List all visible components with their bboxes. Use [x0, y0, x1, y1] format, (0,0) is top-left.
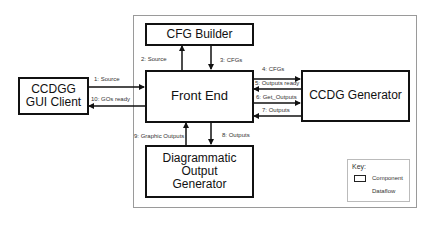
legend-key: Key: Component Dataflow — [347, 159, 410, 202]
flow-2-label: 2: Source — [141, 56, 167, 62]
key-component-label: Component — [372, 175, 403, 181]
dog-label-line3: Generator — [172, 178, 226, 191]
flow-3-label: 3: CFGs — [220, 57, 242, 63]
flow-5-label: 5: Outputs ready — [255, 80, 299, 86]
flow-1-label: 1: Source — [94, 76, 120, 82]
cfg-builder-component: CFG Builder — [145, 23, 254, 46]
gui-client-label-line2: GUI Client — [26, 96, 81, 109]
flow-6-label: 6: Get_Outputs — [256, 94, 297, 100]
gui-client-component: CCDGG GUI Client — [18, 77, 89, 115]
ccdg-generator-label: CCDG Generator — [309, 89, 402, 102]
flow-8-label: 8: Outputs — [222, 132, 250, 138]
cfg-builder-label: CFG Builder — [166, 28, 232, 41]
flow-9-label: 9: Graphic Outputs — [134, 133, 184, 139]
ccdg-generator-component: CCDG Generator — [301, 70, 410, 122]
key-dataflow-label: Dataflow — [372, 188, 395, 194]
key-title: Key: — [352, 163, 366, 170]
flow-10-label: 10: GOs ready — [91, 96, 130, 102]
front-end-label: Front End — [171, 89, 228, 103]
flow-4-label: 4: CFGs — [262, 66, 284, 72]
front-end-component: Front End — [145, 70, 254, 123]
key-component-swatch — [354, 175, 366, 182]
dog-label-line1: Diagrammatic — [162, 152, 236, 165]
flow-7-label: 7: Outputs — [262, 107, 290, 113]
diagrammatic-output-generator-component: Diagrammatic Output Generator — [145, 145, 254, 198]
